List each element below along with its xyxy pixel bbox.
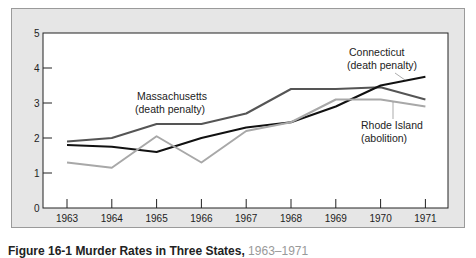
svg-text:Rhode Island: Rhode Island [361, 119, 423, 131]
svg-text:Connecticut: Connecticut [349, 46, 405, 58]
x-tick-label: 1969 [325, 213, 348, 224]
svg-text:(death penalty): (death penalty) [135, 103, 205, 115]
svg-text:(death penalty): (death penalty) [347, 59, 417, 71]
svg-text:(abolition): (abolition) [361, 132, 407, 144]
x-tick-label: 1968 [280, 213, 303, 224]
caption-label: Figure 16-1 [8, 244, 72, 258]
x-tick-label: 1965 [145, 213, 168, 224]
x-tick-label: 1971 [414, 213, 437, 224]
y-tick-label: 5 [34, 28, 40, 39]
annotation-massachusetts: Massachusetts (death penalty) [135, 90, 207, 115]
y-tick-label: 1 [34, 168, 40, 179]
y-tick-label: 0 [34, 203, 40, 214]
x-tick-label: 1963 [56, 213, 79, 224]
caption-title: Murder Rates in Three States, [75, 244, 244, 258]
x-tick-label: 1967 [235, 213, 258, 224]
svg-text:Massachusetts: Massachusetts [137, 90, 207, 102]
x-tick-label: 1966 [190, 213, 213, 224]
figure-caption: Figure 16-1 Murder Rates in Three States… [8, 244, 308, 258]
y-tick-label: 4 [34, 63, 40, 74]
x-tick-label: 1970 [369, 213, 392, 224]
caption-years: 1963–1971 [248, 244, 308, 258]
y-tick-label: 2 [34, 133, 40, 144]
x-tick-label: 1964 [101, 213, 124, 224]
y-tick-label: 3 [34, 98, 40, 109]
